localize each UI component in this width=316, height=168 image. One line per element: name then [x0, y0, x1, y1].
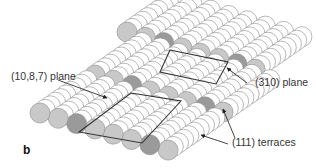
step-edge-atom [158, 140, 178, 160]
label-310-plane: (310) plane [255, 77, 308, 88]
step-edge-atom [103, 124, 123, 144]
label-10-8-7-plane: (10,8,7) plane [11, 71, 76, 82]
step-edge-atom [48, 108, 68, 128]
step-edge-atom [30, 103, 50, 123]
panel-letter: b [23, 144, 30, 156]
stepped-surface-diagram: (10,8,7) plane (310) plane (111) terrace… [0, 0, 316, 168]
marked-step-atom [140, 135, 160, 155]
arrow-111-terrace-lower [201, 135, 228, 144]
marked-step-atom [67, 114, 87, 134]
label-111-terraces: (111) terraces [232, 137, 296, 148]
